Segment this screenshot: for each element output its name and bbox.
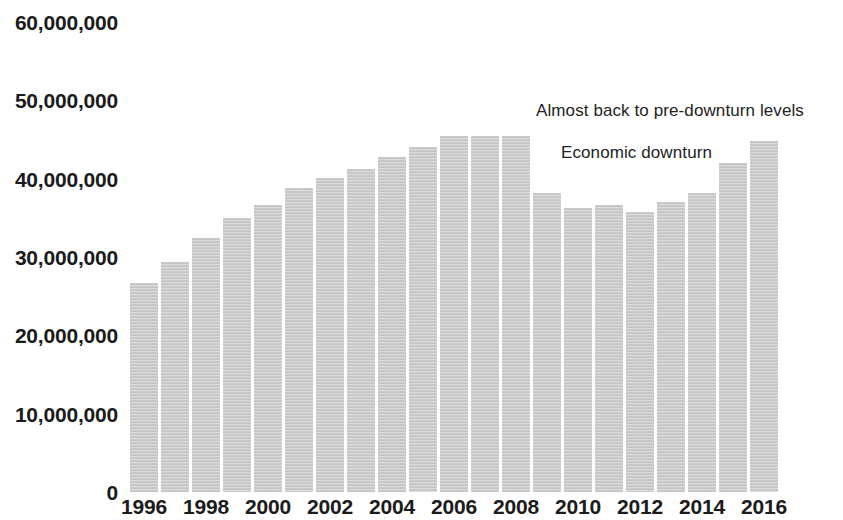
bar: [564, 208, 592, 492]
bar: [192, 238, 220, 492]
bar: [502, 136, 530, 492]
x-axis-tick-label: 2004: [369, 496, 415, 517]
plot-area: 1996199820002002200420062008201020122014…: [130, 0, 820, 520]
x-axis-tick-label: 1996: [121, 496, 167, 517]
y-axis-tick-label: 40,000,000: [15, 168, 118, 189]
x-axis-tick-label: 2010: [555, 496, 601, 517]
bar: [347, 169, 375, 492]
bar: [378, 157, 406, 492]
bar: [688, 193, 716, 492]
bar-chart-figure: 010,000,00020,000,00030,000,00040,000,00…: [0, 0, 843, 520]
bar: [533, 193, 561, 492]
bar: [719, 163, 747, 492]
x-axis-tick-label: 2014: [679, 496, 725, 517]
bar: [657, 202, 685, 492]
y-axis-tick-label: 0: [107, 482, 118, 503]
x-axis-tick-label: 2012: [617, 496, 663, 517]
y-axis-tick-label: 30,000,000: [15, 247, 118, 268]
x-axis-tick-label: 2000: [245, 496, 291, 517]
x-axis-tick-label: 2016: [741, 496, 787, 517]
bar: [161, 262, 189, 492]
bar: [595, 205, 623, 492]
bar: [254, 205, 282, 492]
annotation-downturn-label: Economic downturn: [561, 144, 712, 161]
y-axis-tick-label: 60,000,000: [15, 12, 118, 33]
y-axis-tick-label: 10,000,000: [15, 403, 118, 424]
x-axis-tick-label: 2008: [493, 496, 539, 517]
annotation-recovery-label: Almost back to pre-downturn levels: [536, 102, 804, 119]
y-axis-tick-labels: 010,000,00020,000,00030,000,00040,000,00…: [0, 0, 118, 520]
bar: [285, 188, 313, 492]
y-axis-tick-label: 20,000,000: [15, 325, 118, 346]
bar: [626, 212, 654, 492]
x-axis-tick-label: 1998: [183, 496, 229, 517]
bar: [750, 141, 778, 492]
bar: [471, 136, 499, 492]
y-axis-tick-label: 50,000,000: [15, 90, 118, 111]
x-axis-tick-label: 2006: [431, 496, 477, 517]
bar: [130, 283, 158, 492]
x-axis-tick-label: 2002: [307, 496, 353, 517]
bar: [440, 136, 468, 492]
bar: [409, 147, 437, 492]
bar: [316, 178, 344, 492]
bar: [223, 218, 251, 492]
